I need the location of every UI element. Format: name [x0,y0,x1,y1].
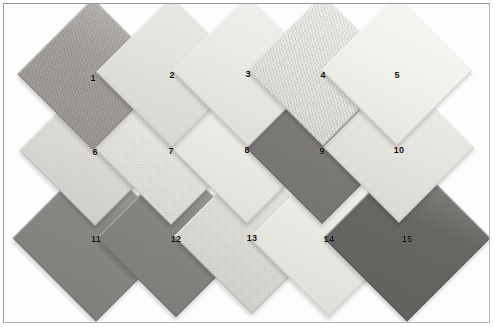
tile-number-label-1: 1 [90,74,95,83]
tile-number-label-14: 14 [324,235,334,244]
tile-number-label-7: 7 [168,147,173,156]
tile-number-label-6: 6 [92,148,97,157]
tile-number-label-3: 3 [245,70,250,79]
tile-number-label-4: 4 [320,71,325,80]
tile-number-label-11: 11 [91,235,101,244]
figure-canvas: 123456789101112131415 [0,0,495,327]
tile-number-label-8: 8 [244,146,249,155]
tile-number-label-12: 12 [171,235,181,244]
tile-number-label-9: 9 [319,147,324,156]
tile-number-label-15: 15 [402,235,412,244]
tile-number-label-10: 10 [394,146,404,155]
tile-number-label-13: 13 [247,234,257,243]
tile-array-plate: 123456789101112131415 [4,4,489,322]
tile-number-label-2: 2 [169,71,174,80]
tile-number-label-5: 5 [394,71,399,80]
